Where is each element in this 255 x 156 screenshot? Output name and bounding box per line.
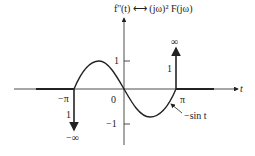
x-tick-label-0: 0: [111, 95, 116, 105]
curve-label-pointer: [171, 104, 182, 113]
x-tick-label-pi: π: [180, 95, 185, 105]
diagram-title: f''(t) ⟷ (jω)² F(jω): [114, 4, 192, 14]
t-axis-label: t: [240, 84, 243, 94]
x-tick-label-minus-pi: −π: [58, 94, 69, 104]
impulse-minus-pi-weight: 1: [66, 110, 71, 120]
curve-label: −sin t: [184, 111, 207, 121]
impulse-minus-pi-infinity: −∞: [66, 133, 79, 143]
y-tick-label-1: 1: [114, 56, 119, 66]
impulse-pi-weight: 1: [167, 64, 172, 74]
diagram-canvas: [0, 0, 255, 156]
impulse-pi-infinity: ∞: [171, 37, 178, 47]
y-tick-label-minus-1: −1: [106, 119, 117, 129]
